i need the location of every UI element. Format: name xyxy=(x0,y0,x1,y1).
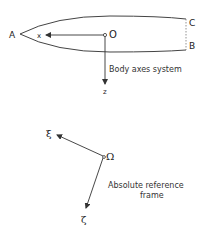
point-label-c: C xyxy=(189,18,195,28)
point-label-a: A xyxy=(9,30,16,40)
absolute-frame-caption-line2: frame xyxy=(140,191,164,200)
origin-o-marker xyxy=(103,33,106,36)
origin-omega-label: Ω xyxy=(106,151,114,162)
hull-outline xyxy=(20,16,186,52)
origin-o-label: O xyxy=(109,29,117,40)
xi-axis-label: ξ xyxy=(46,128,52,139)
z-axis-label: z xyxy=(103,88,107,96)
xi-axis-arrow xyxy=(57,135,103,156)
x-axis-label: x xyxy=(37,32,41,40)
point-label-b: B xyxy=(189,41,195,51)
diagram-canvas: A C B x O z Body axes system ξ Ω ζ Absol… xyxy=(0,0,204,231)
zeta-axis-label: ζ xyxy=(81,214,87,225)
zeta-axis-arrow xyxy=(86,158,103,208)
absolute-frame-caption-line1: Absolute reference xyxy=(108,181,184,190)
origin-omega-marker xyxy=(103,156,106,159)
body-axes-caption: Body axes system xyxy=(109,65,182,74)
